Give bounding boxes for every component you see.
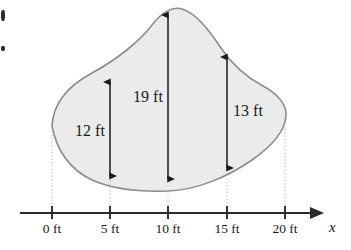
tick-label-15ft: 15 ft	[214, 221, 239, 237]
tick-label-0ft: 0 ft	[43, 221, 61, 237]
tick-label-5ft: 5 ft	[101, 221, 119, 237]
shaded-region-outline	[52, 8, 286, 191]
diagram-canvas	[0, 0, 351, 250]
x-axis-name-label: x	[329, 219, 336, 236]
figure-region-area-diagram: 0 ft 5 ft 10 ft 15 ft 20 ft x 12 ft 19 f…	[0, 0, 351, 250]
measurement-label-12ft: 12 ft	[75, 122, 105, 140]
measurement-label-13ft: 13 ft	[233, 102, 263, 120]
measurement-label-19ft: 19 ft	[133, 88, 163, 106]
tick-label-10ft: 10 ft	[155, 221, 180, 237]
tick-label-20ft: 20 ft	[272, 221, 297, 237]
